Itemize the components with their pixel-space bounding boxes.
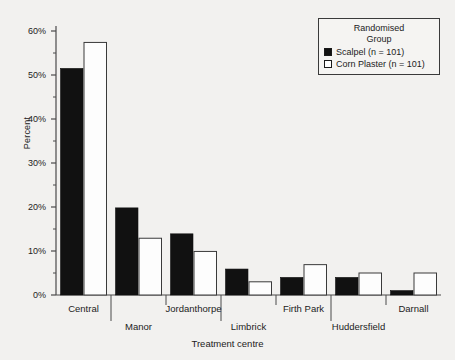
bar [249,282,272,295]
chart-figure: Percent 0%10%20%30%40%50%60% CentralMano… [0,0,455,360]
legend-title-line-1: Randomised [324,23,434,34]
legend: Randomised Group Scalpel (n = 101) Corn … [318,18,440,75]
x-tick-label: Limbrick [231,321,266,332]
y-tick-label: 30% [8,158,46,168]
x-tick-label: Huddersfield [332,321,385,332]
legend-title-line-2: Group [324,34,434,45]
bar [281,277,304,295]
bar [304,265,327,295]
bar [226,269,249,295]
x-tick-label: Firth Park [283,303,324,314]
legend-title: Randomised Group [324,23,434,45]
legend-item-corn-plaster: Corn Plaster (n = 101) [324,59,434,69]
bar [359,273,382,295]
y-tick-label: 10% [8,246,46,256]
bar [171,234,194,295]
bar [414,273,437,295]
legend-label-corn-plaster: Corn Plaster (n = 101) [336,59,425,69]
legend-swatch-corn-plaster-icon [324,60,332,68]
bar [391,291,414,295]
legend-item-scalpel: Scalpel (n = 101) [324,47,434,57]
x-tick-label: Jordanthorpe [166,303,222,314]
bar [139,238,162,295]
x-tick-label: Darnall [398,303,428,314]
legend-label-scalpel: Scalpel (n = 101) [336,47,404,57]
x-tick-label: Central [68,303,99,314]
y-tick-label: 0% [8,290,46,300]
legend-swatch-scalpel-icon [324,48,332,56]
x-axis-title: Treatment centre [0,338,455,349]
bar [61,68,84,295]
bar [84,42,107,295]
bar [336,277,359,295]
bar [194,251,217,295]
y-tick-label: 60% [8,26,46,36]
x-tick-label: Manor [125,321,152,332]
y-tick-label: 20% [8,202,46,212]
y-tick-label: 50% [8,70,46,80]
y-tick-label: 40% [8,114,46,124]
bar [116,208,139,295]
